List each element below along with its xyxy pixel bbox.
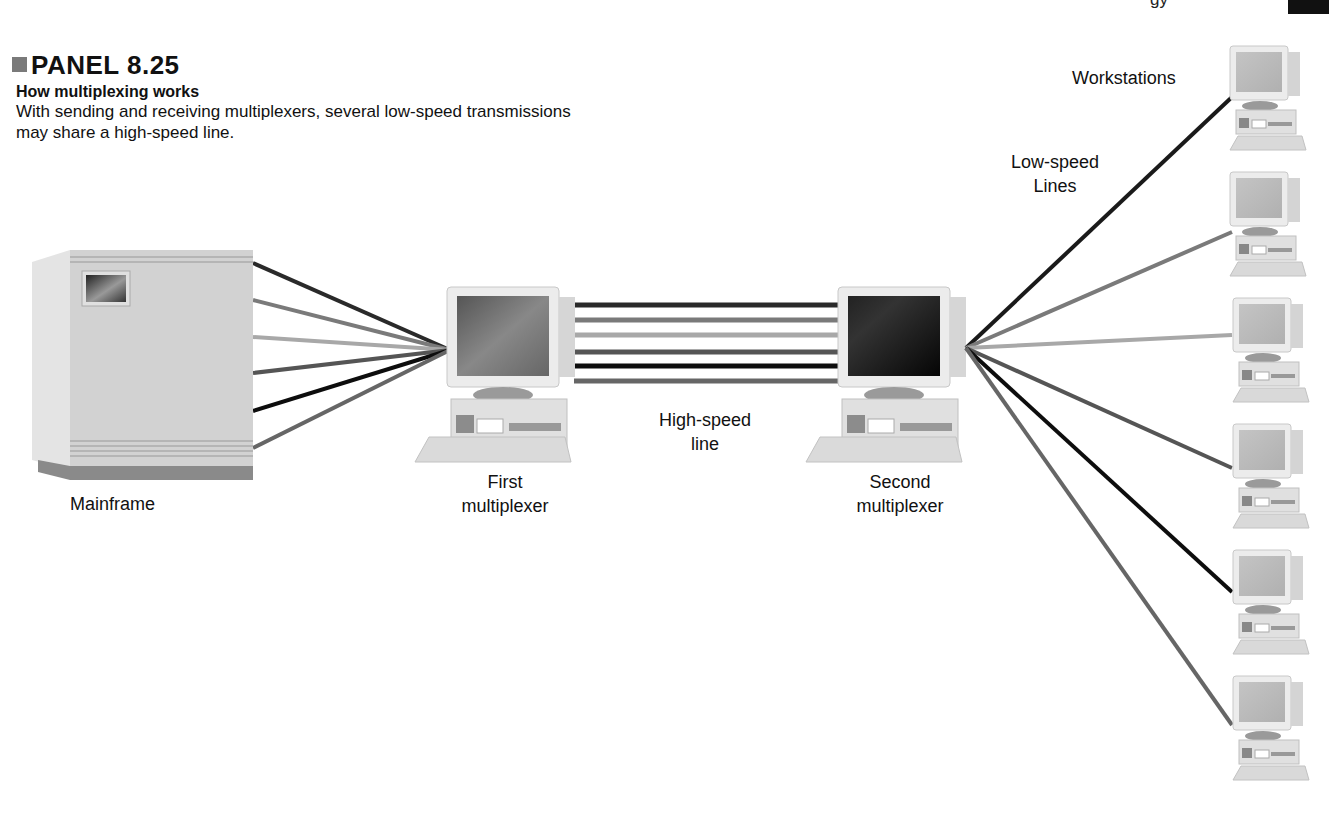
high-speed-label-line1: High-speed [630, 408, 780, 432]
high-speed-line-label: High-speed line [630, 408, 780, 456]
workstation-icon [1230, 172, 1306, 276]
second-multiplexer-label-line2: multiplexer [830, 494, 970, 518]
workstation-icon [1233, 676, 1309, 780]
mainframe-icon [32, 250, 253, 480]
workstation-icon [1233, 550, 1309, 654]
mainframe-links [253, 263, 450, 448]
high-speed-label-line2: line [630, 432, 780, 456]
low-speed-label-line1: Low-speed [1000, 150, 1110, 174]
mainframe-label: Mainframe [70, 492, 155, 516]
second-multiplexer-label-line1: Second [830, 470, 970, 494]
low-speed-lines-label: Low-speed Lines [1000, 150, 1110, 198]
first-multiplexer-label-line2: multiplexer [440, 494, 570, 518]
first-multiplexer-label: First multiplexer [440, 470, 570, 518]
first-multiplexer-icon [415, 287, 575, 462]
high-speed-line [574, 305, 840, 381]
second-multiplexer-icon [806, 287, 966, 462]
second-multiplexer-label: Second multiplexer [830, 470, 970, 518]
workstation-icon [1233, 424, 1309, 528]
workstation-icon [1233, 298, 1309, 402]
workstation-icon [1230, 46, 1306, 150]
low-speed-label-line2: Lines [1000, 174, 1110, 198]
first-multiplexer-label-line1: First [440, 470, 570, 494]
workstations-label: Workstations [1072, 66, 1176, 90]
